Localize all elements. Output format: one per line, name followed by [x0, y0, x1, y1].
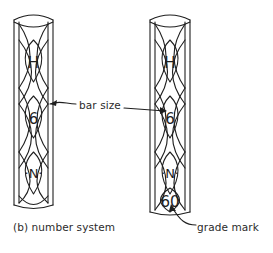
- rebar-diagram-canvas: H 6 ·N· H 6 ·N· 60: [0, 0, 273, 253]
- left-bar-bottom-cap: [19, 196, 48, 205]
- figure-caption: (b) number system: [13, 221, 115, 233]
- right-bar-mark-3: ·N·: [161, 166, 179, 181]
- bar-size-leader-left: [50, 100, 76, 106]
- bar-size-leader-right: [124, 107, 167, 114]
- left-bar-mark-1: H: [28, 54, 39, 72]
- left-bar-mark-2: 6: [29, 110, 39, 128]
- rebar-marking-figure: H 6 ·N· H 6 ·N· 60 bar size grade mark (…: [0, 0, 273, 253]
- grade-mark-annotation-label: grade mark: [197, 221, 259, 233]
- left-bar-top-cap: [14, 15, 53, 20]
- right-bar-top-cap: [150, 15, 190, 20]
- right-bar-mark-2: 6: [165, 110, 175, 128]
- bar-size-annotation-label: bar size: [79, 99, 121, 111]
- right-bar-marks: H 6 ·N· 60: [160, 54, 179, 211]
- left-bar-mark-3: ·N·: [25, 166, 43, 181]
- right-bar-mark-4: 60: [160, 193, 179, 211]
- right-bar-mark-1: H: [164, 54, 175, 72]
- left-bar-bottom-edge: [14, 205, 53, 209]
